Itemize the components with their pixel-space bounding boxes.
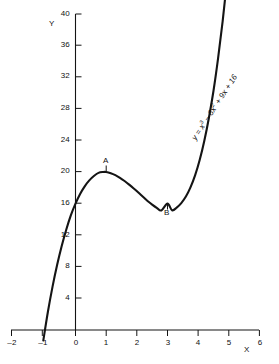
x-tick-label-3: 3 — [158, 338, 178, 347]
y-tick-label-8: 8 — [56, 261, 70, 270]
annotation-label-b: B — [164, 208, 169, 217]
cubic-plot-svg — [0, 0, 279, 364]
y-tick-label-4: 4 — [56, 293, 70, 302]
y-axis-title: Y — [49, 19, 54, 28]
y-axis-ticks — [76, 14, 82, 298]
x-tick-label-5: 5 — [219, 338, 239, 347]
x-axis-title: X — [244, 345, 249, 354]
x-tick-label-neg2: –2 — [2, 338, 22, 347]
cubic-curve — [43, 0, 242, 340]
x-tick-label-0: 0 — [66, 338, 86, 347]
y-tick-label-20: 20 — [56, 166, 70, 175]
x-tick-label-6: 6 — [250, 338, 270, 347]
x-tick-label-2: 2 — [127, 338, 147, 347]
x-tick-label-neg1: –1 — [33, 338, 53, 347]
chart-figure: 4 8 12 16 20 24 28 32 36 40 –2 –1 0 1 2 … — [0, 0, 279, 364]
y-tick-label-36: 36 — [56, 40, 70, 49]
annotation-label-a: A — [103, 156, 108, 165]
y-tick-label-32: 32 — [56, 71, 70, 80]
x-tick-label-1: 1 — [96, 338, 116, 347]
y-tick-label-24: 24 — [56, 135, 70, 144]
y-tick-label-12: 12 — [56, 230, 70, 239]
x-axis-ticks — [12, 330, 260, 336]
y-tick-label-16: 16 — [56, 198, 70, 207]
y-tick-label-40: 40 — [56, 9, 70, 18]
y-tick-label-28: 28 — [56, 103, 70, 112]
x-tick-label-4: 4 — [188, 338, 208, 347]
